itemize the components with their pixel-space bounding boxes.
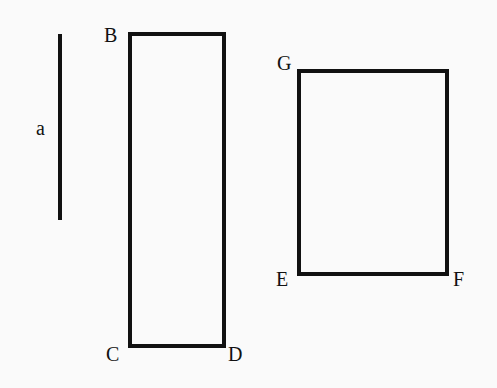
geometry-diagram: a B C D G E F: [0, 0, 497, 388]
vertex-label-b: B: [104, 24, 117, 46]
vertex-label-g: G: [277, 52, 291, 74]
rectangle-bcd: B C D: [104, 24, 242, 365]
rectangle-efg: G E F: [276, 52, 464, 290]
vertex-label-c: C: [106, 343, 119, 365]
vertex-label-d: D: [228, 343, 242, 365]
rectangle-bcd-shape: [130, 34, 224, 346]
segment-a-label: a: [36, 117, 45, 139]
rectangle-efg-shape: [299, 71, 447, 274]
segment-a: a: [36, 34, 60, 220]
vertex-label-f: F: [453, 268, 464, 290]
diagram-svg: a B C D G E F: [0, 0, 497, 388]
vertex-label-e: E: [276, 268, 288, 290]
